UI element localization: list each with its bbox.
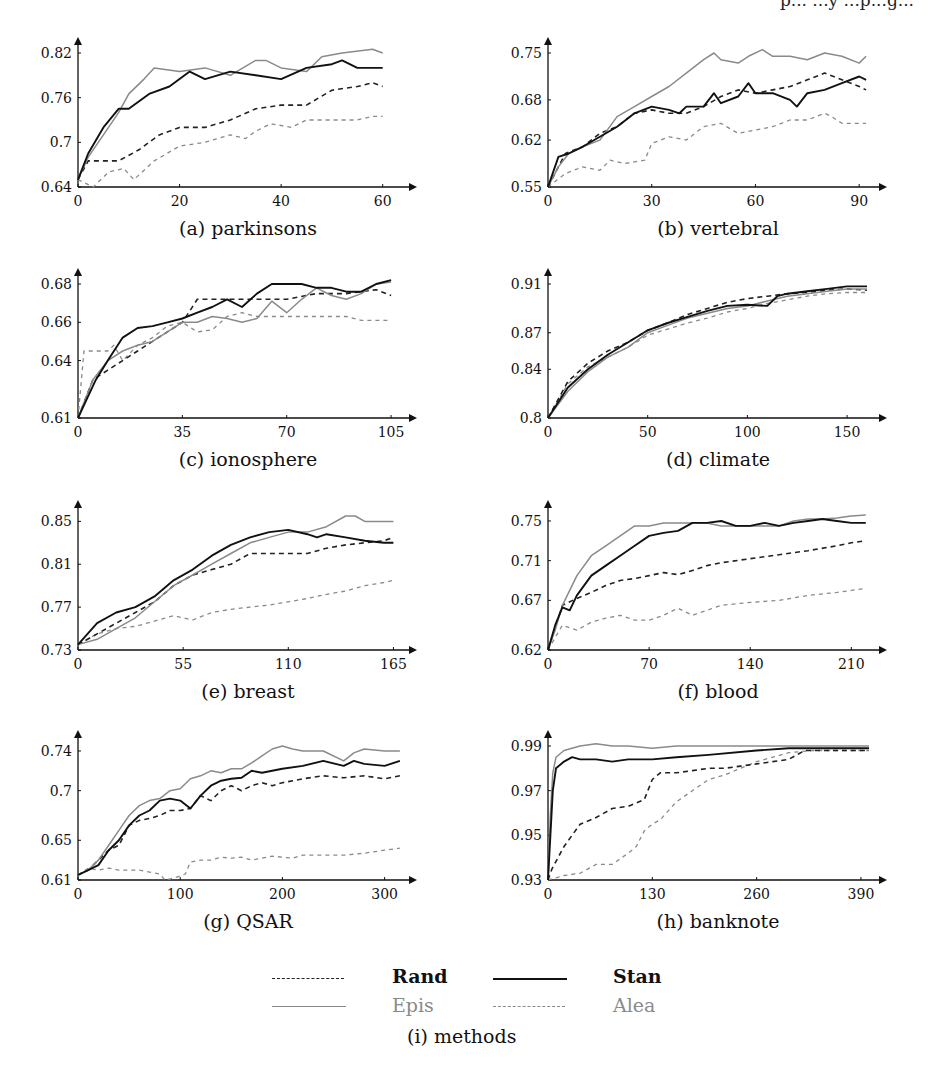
series-alea <box>548 751 869 881</box>
x-tick-label: 260 <box>743 886 770 902</box>
y-tick-label: 0.95 <box>511 827 542 843</box>
legend-swatch-epis <box>272 1006 346 1007</box>
legend-swatch-alea <box>493 1006 565 1007</box>
legend-label-stan: Stan <box>613 965 662 987</box>
series-stan <box>548 748 869 880</box>
x-tick-label: 0 <box>544 886 553 902</box>
panel-caption: (h) banknote <box>508 910 928 932</box>
y-tick-label: 0.93 <box>511 872 542 888</box>
x-tick-label: 130 <box>639 886 666 902</box>
legend-label-alea: Alea <box>613 994 655 1016</box>
legend-label-epis: Epis <box>392 994 434 1016</box>
legend-swatch-stan <box>493 978 567 980</box>
series-rand <box>548 751 869 881</box>
y-tick-label: 0.99 <box>511 738 542 754</box>
legend-label-rand: Rand <box>392 965 448 987</box>
legend: Rand Stan Epis Alea (i) methods <box>0 960 934 1075</box>
axes <box>548 734 883 880</box>
x-tick-label: 390 <box>848 886 875 902</box>
y-tick-label: 0.97 <box>511 783 542 799</box>
legend-swatch-rand <box>272 978 344 979</box>
legend-caption: (i) methods <box>407 1025 516 1047</box>
axis-arrow-icon <box>544 730 887 884</box>
series-epis <box>548 744 869 880</box>
